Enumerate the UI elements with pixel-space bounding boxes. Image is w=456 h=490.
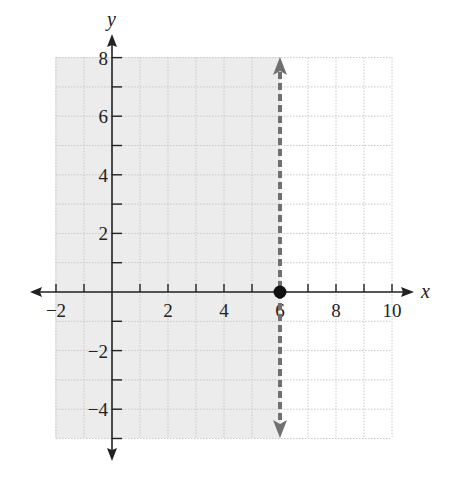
- y-tick-label: −4: [88, 399, 109, 420]
- y-tick-label: 4: [99, 165, 109, 186]
- x-tick-label: 2: [163, 300, 173, 321]
- x-tick-label: −2: [46, 300, 66, 321]
- y-tick-label: 2: [99, 223, 109, 244]
- y-tick-label: −2: [88, 341, 108, 362]
- coordinate-plane: −22468108642−2−4 x y: [0, 0, 456, 490]
- x-tick-label: 8: [331, 300, 341, 321]
- y-tick-label: 6: [99, 106, 109, 127]
- x-tick-label: 4: [219, 300, 229, 321]
- x-tick-label: 10: [383, 300, 402, 321]
- point-6-0: [274, 286, 287, 299]
- x-axis-label: x: [420, 280, 430, 302]
- y-tick-label: 8: [99, 48, 109, 69]
- y-axis-label: y: [105, 8, 116, 31]
